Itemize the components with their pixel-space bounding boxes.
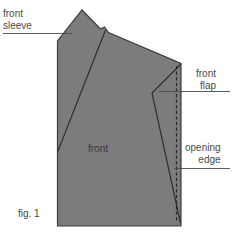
figure-container: front sleeve front flap opening edge fro… [0, 0, 233, 237]
front-sleeve-label: front sleeve [3, 8, 32, 31]
pattern-piece-diagram [0, 0, 233, 237]
figure-caption: fig. 1 [18, 208, 40, 220]
front-piece-shape [58, 10, 182, 226]
front-flap-label: front flap [196, 68, 216, 91]
front-piece-label: front [88, 143, 108, 154]
opening-edge-label: opening edge [185, 142, 221, 165]
